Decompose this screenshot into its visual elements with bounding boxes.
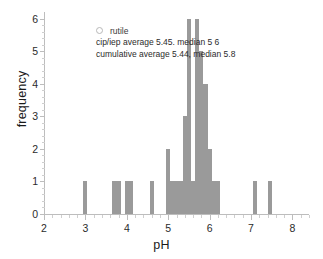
y-tick-label: 6 <box>32 13 38 25</box>
x-tick-minor <box>160 215 161 218</box>
x-tick <box>292 215 293 220</box>
y-axis-line <box>44 12 45 215</box>
bar <box>129 181 133 214</box>
x-tick <box>210 215 211 220</box>
x-tick-minor <box>259 215 260 218</box>
x-tick-label: 4 <box>124 222 130 234</box>
y-tick-minor <box>42 103 45 104</box>
bar <box>83 181 87 214</box>
y-tick-label: 5 <box>32 45 38 57</box>
chart-legend: rutile cip/iep average 5.45. median 5 6 … <box>96 25 296 60</box>
y-tick <box>40 19 45 20</box>
x-tick-minor <box>61 215 62 218</box>
x-tick <box>168 215 169 220</box>
x-tick-minor <box>218 215 219 218</box>
y-tick-label: 4 <box>32 78 38 90</box>
bar <box>268 181 272 214</box>
x-tick-label: 6 <box>207 222 213 234</box>
x-tick-minor <box>234 215 235 218</box>
x-tick-minor <box>193 215 194 218</box>
x-tick-label: 2 <box>41 222 47 234</box>
y-tick-minor <box>42 77 45 78</box>
bar <box>253 181 257 214</box>
x-tick-minor <box>152 215 153 218</box>
x-tick-minor <box>143 215 144 218</box>
x-tick-minor <box>243 215 244 218</box>
x-tick-minor <box>119 215 120 218</box>
y-tick-label: 0 <box>32 208 38 220</box>
y-tick-minor <box>42 162 45 163</box>
x-axis-label: pH <box>0 238 323 252</box>
annotation-cumulative: cumulative average 5.44, median 5.8 <box>96 49 296 60</box>
open-circle-icon <box>96 27 103 34</box>
y-tick-minor <box>42 188 45 189</box>
x-tick-label: 3 <box>82 222 88 234</box>
y-tick-minor <box>42 201 45 202</box>
y-tick-minor <box>42 45 45 46</box>
x-tick-label: 7 <box>248 222 254 234</box>
y-tick-minor <box>42 155 45 156</box>
x-tick-minor <box>77 215 78 218</box>
y-tick-label: 1 <box>32 175 38 187</box>
x-tick-minor <box>301 215 302 218</box>
x-tick <box>251 215 252 220</box>
y-tick-label: 3 <box>32 110 38 122</box>
y-tick-minor <box>42 168 45 169</box>
y-tick <box>40 149 45 150</box>
bar <box>216 181 220 214</box>
y-tick-minor <box>42 38 45 39</box>
y-tick-minor <box>42 25 45 26</box>
y-tick-minor <box>42 97 45 98</box>
x-tick-minor <box>284 215 285 218</box>
y-tick-minor <box>42 71 45 72</box>
y-tick-minor <box>42 207 45 208</box>
y-tick-minor <box>42 64 45 65</box>
y-axis-label: frequency <box>15 51 29 147</box>
chart-figure: frequency pH 0123456 2345678 rutile cip/… <box>0 0 323 259</box>
x-tick-minor <box>201 215 202 218</box>
y-tick-minor <box>42 194 45 195</box>
annotation-cip-iep: cip/iep average 5.45. median 5 6 <box>96 37 296 48</box>
x-tick <box>44 215 45 220</box>
x-tick-minor <box>110 215 111 218</box>
x-tick-minor <box>177 215 178 218</box>
x-tick-minor <box>102 215 103 218</box>
x-tick-label: 5 <box>165 222 171 234</box>
x-tick-minor <box>309 215 310 218</box>
x-tick-minor <box>135 215 136 218</box>
y-tick-minor <box>42 58 45 59</box>
y-tick-label: 2 <box>32 143 38 155</box>
x-tick-minor <box>52 215 53 218</box>
bar <box>116 181 120 214</box>
y-tick <box>40 51 45 52</box>
legend-label: rutile <box>110 26 128 36</box>
x-tick-label: 8 <box>290 222 296 234</box>
x-tick <box>85 215 86 220</box>
x-tick-minor <box>268 215 269 218</box>
plot-area: 0123456 2345678 rutile cip/iep average 5… <box>44 12 309 215</box>
x-tick-minor <box>69 215 70 218</box>
y-tick-minor <box>42 110 45 111</box>
x-tick-minor <box>276 215 277 218</box>
y-tick-minor <box>42 142 45 143</box>
x-tick <box>127 215 128 220</box>
y-tick <box>40 84 45 85</box>
y-tick-minor <box>42 123 45 124</box>
y-tick <box>40 181 45 182</box>
x-tick-minor <box>185 215 186 218</box>
y-tick <box>40 116 45 117</box>
y-tick-minor <box>42 136 45 137</box>
y-tick-minor <box>42 129 45 130</box>
y-tick-minor <box>42 32 45 33</box>
y-tick-minor <box>42 90 45 91</box>
legend-entry-rutile: rutile <box>96 25 296 36</box>
x-tick-minor <box>94 215 95 218</box>
x-tick-minor <box>226 215 227 218</box>
y-tick-minor <box>42 175 45 176</box>
bar <box>150 181 154 214</box>
